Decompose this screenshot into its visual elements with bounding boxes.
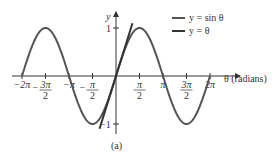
x-tick-label: −2π — [14, 79, 32, 90]
x-tick-label: 2 — [137, 90, 142, 101]
figure-caption: (a) — [111, 140, 122, 152]
x-tick-label: − — [79, 82, 85, 93]
x-tick-label: 3π — [39, 79, 51, 90]
x-tick-label: − — [32, 82, 38, 93]
chart-sin-vs-theta: y θ (radians) 1 −1 −2π−3π2−π−π2π2π3π22π … — [0, 0, 280, 160]
legend-label-theta: y = θ — [189, 25, 210, 36]
x-tick-label: 2 — [90, 90, 95, 101]
legend-label-sin: y = sin θ — [189, 12, 224, 23]
y-axis-label: y — [105, 11, 111, 22]
x-tick-label: 3π — [180, 79, 192, 90]
svg-text:1: 1 — [106, 23, 111, 34]
x-tick-label: π — [90, 79, 96, 90]
x-tick-label: 2 — [184, 90, 189, 101]
legend: y = sin θ y = θ — [172, 12, 224, 36]
x-axis-label: θ (radians) — [224, 73, 267, 85]
x-tick-label: 2 — [43, 90, 48, 101]
x-tick-label: π — [137, 79, 143, 90]
